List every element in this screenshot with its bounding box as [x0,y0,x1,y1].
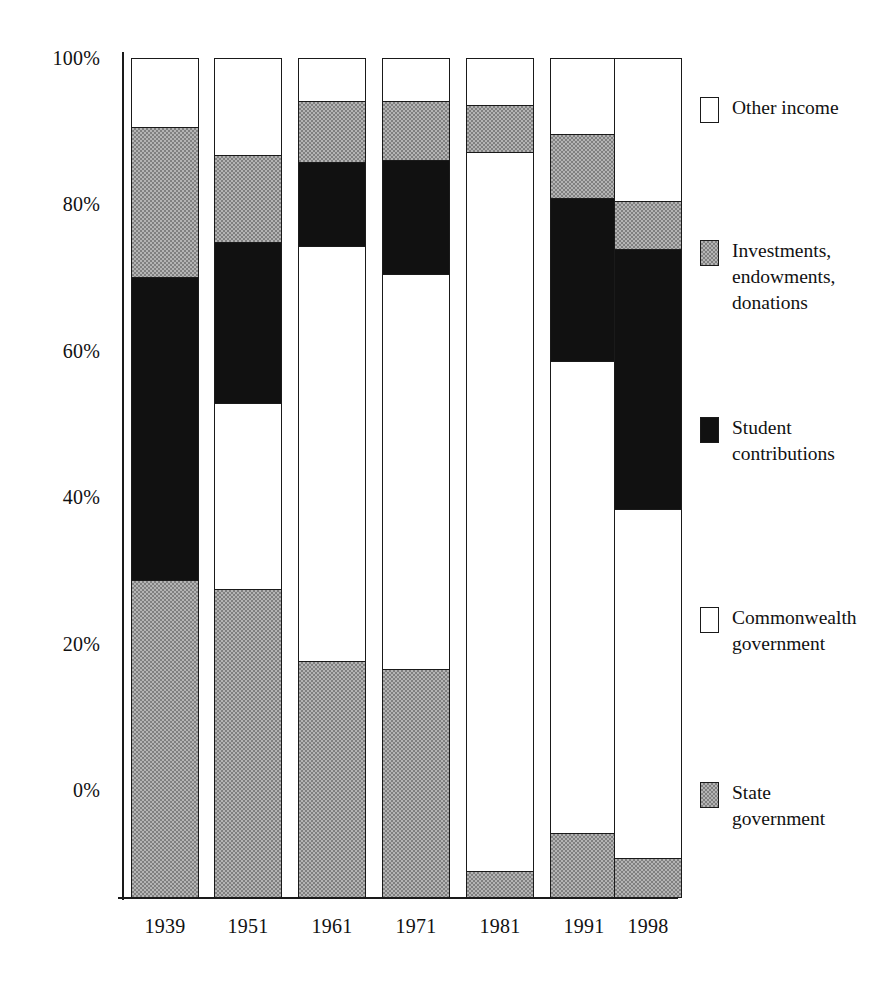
bar-segment-student_contributions-1998[interactable] [615,249,681,509]
legend-item-1[interactable]: Investments, endowments, donations [700,238,835,316]
legend-item-label: State government [732,780,825,832]
x-axis-tick-1971: 1971 [382,915,450,938]
x-axis-tick-1998: 1998 [614,915,682,938]
bar-segment-other_income-1971[interactable] [383,59,449,101]
legend-item-label: Commonwealth government [732,605,857,657]
black-swatch-icon [700,417,719,443]
x-axis-tick-labels: 1939195119611971198119911998 [122,915,682,955]
y-axis-tick-100: 100% [53,47,100,70]
stacked-bar-chart: 100%80%60%40%20%0% 193919511961197119811… [0,0,890,992]
chart-legend: Other incomeInvestments, endowments, don… [700,0,890,992]
x-axis-tick-1961: 1961 [298,915,366,938]
bar-segment-commonwealth_government-1998[interactable] [615,509,681,859]
y-axis-tick-0: 0% [73,779,100,802]
bar-segment-other_income-1951[interactable] [215,59,281,155]
bar-segment-other_income-1991[interactable] [551,59,617,134]
hatch-swatch-icon [700,240,719,266]
bar-segment-commonwealth_government-1961[interactable] [299,246,365,661]
bar-segment-other_income-1939[interactable] [132,59,198,127]
y-axis-tick-20: 20% [63,632,100,655]
x-axis-tick-1991: 1991 [550,915,618,938]
bar-1998[interactable] [614,58,682,898]
y-axis-tick-60: 60% [63,339,100,362]
bar-segment-student_contributions-1951[interactable] [215,242,281,403]
bar-segment-student_contributions-1961[interactable] [299,162,365,246]
bar-segment-investments-1998[interactable] [615,201,681,250]
bar-segment-other_income-1981[interactable] [467,59,533,105]
bar-segment-investments-1951[interactable] [215,155,281,242]
bar-segment-other_income-1998[interactable] [615,59,681,201]
bar-1991[interactable] [550,58,618,898]
y-axis-tick-80: 80% [63,193,100,216]
bar-1951[interactable] [214,58,282,898]
bar-segment-investments-1991[interactable] [551,134,617,198]
y-axis-tick-labels: 100%80%60%40%20%0% [0,0,118,992]
x-axis-tick-1951: 1951 [214,915,282,938]
legend-item-label: Investments, endowments, donations [732,238,835,316]
legend-item-3[interactable]: Commonwealth government [700,605,857,657]
bar-segment-investments-1961[interactable] [299,101,365,162]
bar-segment-student_contributions-1939[interactable] [132,277,198,580]
bar-segment-other_income-1961[interactable] [299,59,365,101]
bar-segment-state_government-1961[interactable] [299,661,365,897]
white-swatch-icon [700,97,719,123]
bar-segment-investments-1971[interactable] [383,101,449,160]
bar-1961[interactable] [298,58,366,898]
bar-segment-investments-1981[interactable] [467,105,533,152]
bar-segment-state_government-1939[interactable] [132,580,198,897]
bar-segment-commonwealth_government-1981[interactable] [467,152,533,871]
bar-segment-state_government-1998[interactable] [615,858,681,897]
legend-item-0[interactable]: Other income [700,95,839,123]
bar-1939[interactable] [131,58,199,898]
x-axis-tick-1939: 1939 [131,915,199,938]
bar-segment-state_government-1981[interactable] [467,871,533,897]
bar-segment-state_government-1991[interactable] [551,833,617,897]
y-axis-tick-40: 40% [63,486,100,509]
bar-segment-commonwealth_government-1991[interactable] [551,361,617,833]
hatch-swatch-icon [700,782,719,808]
bar-series-container [122,0,682,992]
bar-segment-state_government-1951[interactable] [215,589,281,897]
legend-item-4[interactable]: State government [700,780,825,832]
legend-item-2[interactable]: Student contributions [700,415,835,467]
bar-segment-commonwealth_government-1971[interactable] [383,274,449,669]
bar-segment-commonwealth_government-1951[interactable] [215,403,281,589]
white-swatch-icon [700,607,719,633]
bar-1971[interactable] [382,58,450,898]
legend-item-label: Other income [732,95,839,121]
bar-segment-student_contributions-1991[interactable] [551,198,617,362]
bar-segment-student_contributions-1971[interactable] [383,160,449,274]
legend-item-label: Student contributions [732,415,835,467]
bar-segment-state_government-1971[interactable] [383,669,449,897]
bar-1981[interactable] [466,58,534,898]
x-axis-tick-1981: 1981 [466,915,534,938]
bar-segment-investments-1939[interactable] [132,127,198,277]
